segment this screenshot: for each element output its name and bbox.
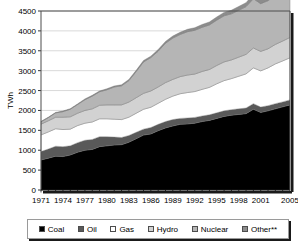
y-axis-tick-label: 3000: [18, 67, 36, 76]
x-axis-tick-label: 1983: [120, 196, 138, 205]
y-axis-tick-label: 1000: [18, 146, 36, 155]
legend-label-nuclear: Nuclear: [201, 225, 229, 234]
chart-canvas: 0500100015002000250030003500400045001971…: [0, 0, 298, 214]
y-axis-title: TWh: [6, 92, 15, 109]
legend-swatch-gas: [110, 226, 116, 232]
y-axis-tick-label: 4500: [18, 7, 36, 16]
y-axis-tick-label: 1500: [18, 126, 36, 135]
x-axis-tick-label: 1971: [32, 196, 50, 205]
legend-swatch-hydro: [148, 226, 154, 232]
x-axis-tick-label: 1998: [230, 196, 248, 205]
legend-label-gas: Gas: [119, 225, 134, 234]
x-axis-tick-label: 1974: [54, 196, 72, 205]
y-axis-tick-label: 0: [32, 186, 37, 195]
y-axis-tick-label: 2000: [18, 106, 36, 115]
chart-legend: Coal Oil Gas Hydro Nuclear Other**: [27, 219, 289, 239]
x-axis-tick-label: 1986: [142, 196, 160, 205]
x-axis-tick-label: 2005: [281, 196, 298, 205]
legend-item-oil[interactable]: Oil: [78, 225, 97, 234]
y-axis-tick-label: 3500: [18, 47, 36, 56]
x-axis-tick-label: 1989: [164, 196, 182, 205]
legend-item-nuclear[interactable]: Nuclear: [192, 225, 229, 234]
legend-swatch-nuclear: [192, 226, 198, 232]
legend-swatch-oil: [78, 226, 84, 232]
x-axis-tick-label: 1995: [208, 196, 226, 205]
stacked-area-chart-figure: 0500100015002000250030003500400045001971…: [0, 0, 298, 251]
legend-item-coal[interactable]: Coal: [39, 225, 64, 234]
legend-label-oil: Oil: [87, 225, 97, 234]
x-axis-tick-label: 1977: [76, 196, 94, 205]
legend-swatch-coal: [39, 226, 45, 232]
y-axis-tick-label: 2500: [18, 87, 36, 96]
legend-label-other: Other**: [251, 225, 277, 234]
legend-swatch-other: [242, 226, 248, 232]
x-axis-tick-label: 1992: [186, 196, 204, 205]
legend-item-gas[interactable]: Gas: [110, 225, 134, 234]
legend-item-other[interactable]: Other**: [242, 225, 277, 234]
x-axis-tick-label: 2001: [252, 196, 270, 205]
legend-label-hydro: Hydro: [157, 225, 178, 234]
y-axis-tick-label: 500: [23, 166, 37, 175]
y-axis-tick-label: 4000: [18, 27, 36, 36]
x-axis-tick-label: 1980: [98, 196, 116, 205]
legend-item-hydro[interactable]: Hydro: [148, 225, 178, 234]
legend-label-coal: Coal: [48, 225, 64, 234]
plot-region: 0500100015002000250030003500400045001971…: [0, 0, 298, 214]
